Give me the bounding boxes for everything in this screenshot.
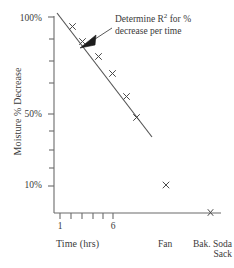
data-point-marker	[124, 94, 130, 100]
x-axis-ticks	[60, 213, 113, 219]
x-axis-title: Time (hrs)	[56, 239, 99, 250]
category-label-line2: Sack	[184, 249, 232, 259]
data-point-marker	[96, 54, 102, 60]
annotation-text-part2: for %	[167, 14, 191, 24]
data-point-marker	[134, 115, 140, 121]
data-point-marker	[80, 39, 86, 45]
data-point-marker	[70, 24, 76, 30]
y-axis-ticks	[48, 17, 54, 186]
y-tick-label-10: 10%	[8, 180, 42, 190]
data-points-time-series	[70, 24, 140, 121]
data-point-marker	[110, 71, 116, 77]
data-point-fan	[163, 182, 169, 188]
y-axis-title: Moisture % Decrease	[13, 51, 24, 171]
category-label-fan: Fan	[152, 239, 178, 249]
x-tick-label-6: 6	[105, 221, 121, 231]
category-label-bak-soda-sack: Bak. SodaSack	[184, 239, 232, 260]
r-squared-annotation: Determine R2 for %decrease per time	[115, 14, 227, 38]
annotation-pointer	[80, 28, 112, 48]
category-label-line1: Bak. Soda	[193, 239, 232, 249]
moisture-decrease-chart: 100% 50% 10% 1 6 Time (hrs) Moisture % D…	[0, 0, 234, 268]
annotation-text-line2: decrease per time	[115, 26, 181, 36]
y-tick-label-100: 100%	[8, 13, 42, 23]
annotation-text-part1: Determine R	[115, 14, 164, 24]
x-tick-label-1: 1	[52, 221, 68, 231]
